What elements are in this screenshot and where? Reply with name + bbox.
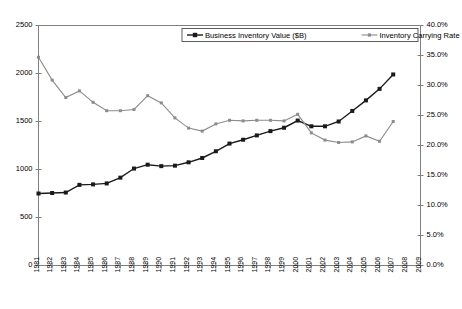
x-axis-tick-label: 2008 <box>401 257 408 273</box>
chart-legend: Business Inventory Value ($B)Inventory C… <box>182 29 460 42</box>
data-point-marker <box>51 79 54 82</box>
data-point-marker <box>146 94 149 97</box>
data-point-marker <box>92 101 95 104</box>
data-point-marker <box>324 139 327 142</box>
data-point-marker <box>159 164 163 168</box>
data-point-marker <box>187 127 190 130</box>
data-point-marker <box>64 191 68 195</box>
data-point-marker <box>105 181 109 185</box>
data-point-marker <box>283 119 286 122</box>
y-axis-right-tick-label: 5.0% <box>427 230 444 239</box>
data-point-marker <box>173 116 176 119</box>
legend-swatch-marker <box>193 33 197 37</box>
data-point-marker <box>201 130 204 133</box>
y-axis-left-tick-label: 2000 <box>16 68 33 77</box>
x-axis-tick-label: 1997 <box>251 257 258 273</box>
line-chart: 05001000150020002500 0.0%5.0%10.0%15.0%2… <box>0 0 462 309</box>
data-point-marker <box>228 142 232 146</box>
legend-item-label: Business Inventory Value ($B) <box>205 31 307 40</box>
chart-container: 05001000150020002500 0.0%5.0%10.0%15.0%2… <box>0 0 462 309</box>
data-point-marker <box>268 129 272 133</box>
data-point-marker <box>310 131 313 134</box>
data-point-marker <box>364 134 367 137</box>
data-point-marker <box>214 122 217 125</box>
data-point-marker <box>392 120 395 123</box>
data-point-marker <box>378 140 381 143</box>
series-layer <box>37 56 396 196</box>
x-axis-tick-label: 2001 <box>305 257 312 273</box>
x-axis-tick-label: 1991 <box>169 257 176 273</box>
x-axis-tick-label: 2002 <box>319 257 326 273</box>
x-axis-tick-label: 1993 <box>196 257 203 273</box>
x-axis-tick-label: 2009 <box>415 257 422 273</box>
data-point-marker <box>160 101 163 104</box>
y-axis-left-tick-label: 500 <box>20 212 33 221</box>
data-point-marker <box>64 96 67 99</box>
data-point-marker <box>91 182 95 186</box>
x-axis-tick-label: 1984 <box>73 257 80 273</box>
data-point-marker <box>323 124 327 128</box>
data-point-marker <box>173 164 177 168</box>
x-axis-tick-label: 1996 <box>237 257 244 273</box>
x-axis-tick-label: 1994 <box>210 257 217 273</box>
x-axis-tick-label: 1999 <box>278 257 285 273</box>
data-point-marker <box>337 141 340 144</box>
data-point-marker <box>350 109 354 113</box>
x-axis-tick-label: 2000 <box>292 257 299 273</box>
legend-swatch-marker <box>368 33 371 36</box>
x-axis-tick-label: 1985 <box>87 257 94 273</box>
data-point-marker <box>296 119 300 123</box>
x-axis-tick-label: 1992 <box>183 257 190 273</box>
x-axis-tick-label: 2005 <box>360 257 367 273</box>
data-point-marker <box>118 176 122 180</box>
data-point-marker <box>255 119 258 122</box>
data-point-marker <box>228 119 231 122</box>
data-point-marker <box>37 192 41 196</box>
y-axis-right-tick-label: 20.0% <box>427 140 449 149</box>
y-axis-right-tick-label: 10.0% <box>427 200 449 209</box>
legend-item-label: Inventory Carrying Rate <box>379 31 459 40</box>
data-point-marker <box>214 149 218 153</box>
y-axis-right-tick-label: 25.0% <box>427 110 449 119</box>
x-axis-tick-label: 1981 <box>33 257 40 273</box>
x-axis-tick-label: 1987 <box>114 257 121 273</box>
y-axis-right-tick-label: 0.0% <box>427 260 444 269</box>
series-line <box>39 74 394 193</box>
data-point-marker <box>269 119 272 122</box>
series-line <box>39 57 394 142</box>
data-point-marker <box>77 183 81 187</box>
data-point-marker <box>242 119 245 122</box>
data-point-marker <box>119 109 122 112</box>
y-axis-left-tick-label: 1500 <box>16 116 33 125</box>
data-point-marker <box>255 133 259 137</box>
data-point-marker <box>105 109 108 112</box>
series-1 <box>37 72 396 195</box>
data-point-marker <box>241 138 245 142</box>
y-axis-left-tick-label: 2500 <box>16 20 33 29</box>
data-point-marker <box>133 108 136 111</box>
x-axis-tick-label: 1986 <box>101 257 108 273</box>
y-axis-right-tick-label: 15.0% <box>427 170 449 179</box>
x-axis-tick-label: 2003 <box>333 257 340 273</box>
x-axis-tick-label: 1995 <box>224 257 231 273</box>
data-point-marker <box>146 163 150 167</box>
y-axis-left-tick-label: 1000 <box>16 164 33 173</box>
data-point-marker <box>187 160 191 164</box>
data-point-marker <box>351 140 354 143</box>
x-axis: 1981198219831984198519861987198819891990… <box>33 257 422 273</box>
data-point-marker <box>50 191 54 195</box>
data-point-marker <box>78 89 81 92</box>
y-axis-right-tick-label: 40.0% <box>427 20 449 29</box>
x-axis-tick-label: 1988 <box>128 257 135 273</box>
x-axis-tick-label: 2006 <box>374 257 381 273</box>
x-axis-tick-label: 2007 <box>387 257 394 273</box>
data-point-marker <box>364 98 368 102</box>
data-point-marker <box>337 120 341 124</box>
data-point-marker <box>391 72 395 76</box>
x-axis-tick-label: 1998 <box>264 257 271 273</box>
series-2 <box>37 56 395 144</box>
data-point-marker <box>132 167 136 171</box>
y-axis-right: 0.0%5.0%10.0%15.0%20.0%25.0%30.0%35.0%40… <box>418 20 449 269</box>
data-point-marker <box>37 56 40 59</box>
data-point-marker <box>282 126 286 130</box>
